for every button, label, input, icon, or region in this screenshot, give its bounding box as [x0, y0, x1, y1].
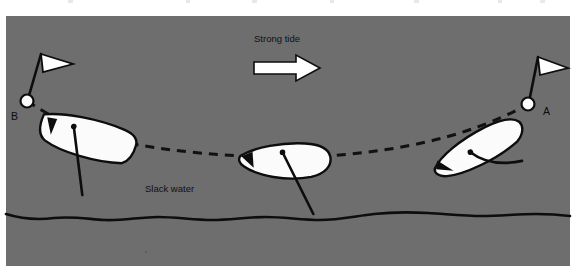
- buoy-left-label: B: [11, 110, 18, 122]
- tide-label: Strong tide: [254, 33, 300, 44]
- scan-speck-artifact: [145, 251, 147, 253]
- anchor-swing-diagram: Strong tide B A: [0, 0, 582, 276]
- buoy-right-float-icon: [522, 98, 535, 111]
- figure-root: Strong tide B A: [0, 0, 582, 276]
- buoy-right-label: A: [543, 105, 550, 117]
- buoy-left-float-icon: [21, 95, 34, 108]
- slack-water-label: Slack water: [145, 183, 194, 194]
